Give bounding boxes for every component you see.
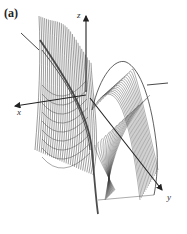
y-axis-label: y [167,192,171,202]
right-mesh-dome [92,61,158,200]
z-axis-label: z [77,10,81,20]
surface-plot-figure: (a) z x y [0,0,187,234]
leader-line-left [21,33,39,50]
panel-label: (a) [4,6,18,21]
left-mesh-sheet [35,16,98,214]
leader-line-right [147,83,168,85]
x-axis-label: x [17,107,21,117]
axes [15,16,168,190]
wireframe-surface [0,0,187,234]
